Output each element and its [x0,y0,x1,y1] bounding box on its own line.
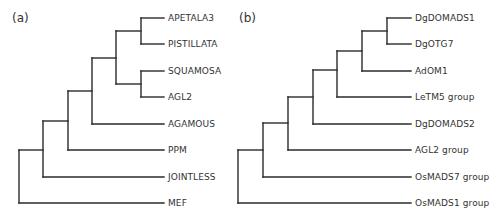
leaf-label: SQUAMOSA [168,67,221,76]
tree-branches [0,0,501,220]
phylogenetic-tree-figure: (a) APETALA3 PISTILLATA SQUAMOSA AGL2 AG… [0,0,501,220]
leaf-label: PISTILLATA [168,40,218,49]
leaf-label: DgOTG7 [415,40,454,49]
leaf-label: AGL2 group [415,146,469,155]
leaf-label: AGL2 [168,93,192,102]
panel-a-label: (a) [12,12,29,24]
leaf-label: MEF [168,199,187,208]
tree-a-branches [19,18,164,203]
leaf-label: PPM [168,146,187,155]
leaf-label: DgDOMADS1 [415,14,475,23]
leaf-label: JOINTLESS [168,173,216,182]
leaf-label: OsMADS1 group [415,199,489,208]
tree-b-branches [238,18,411,203]
leaf-label: LeTM5 group [415,93,474,102]
leaf-label: DgDOMADS2 [415,120,475,129]
leaf-label: APETALA3 [168,14,214,23]
leaf-label: AdOM1 [415,67,448,76]
leaf-label: AGAMOUS [168,120,215,129]
panel-b-label: (b) [239,12,256,24]
leaf-label: OsMADS7 group [415,173,489,182]
